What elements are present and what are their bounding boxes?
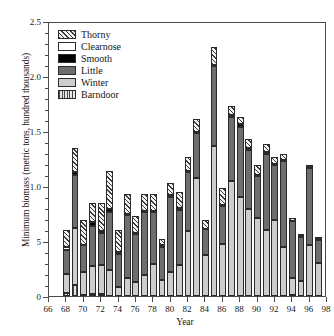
bar-segment-little bbox=[263, 154, 270, 230]
bar-segment-smooth bbox=[228, 115, 235, 117]
bar-segment-thorny bbox=[141, 194, 148, 212]
bar-segment-winter bbox=[289, 278, 296, 295]
legend-item-smooth: Smooth bbox=[58, 53, 121, 64]
bar-1987 bbox=[228, 21, 235, 296]
legend-item-clearnose: Clearnose bbox=[58, 41, 121, 52]
bar-segment-little bbox=[315, 240, 322, 263]
legend-swatch-clearnose bbox=[58, 42, 76, 51]
x-tick bbox=[65, 297, 66, 302]
bar-1994 bbox=[289, 21, 296, 296]
bar-segment-little bbox=[289, 221, 296, 278]
y-tick-minor bbox=[45, 286, 48, 287]
bar-segment-winter bbox=[115, 287, 122, 296]
x-tick bbox=[187, 297, 188, 302]
bar-segment-thorny bbox=[106, 171, 113, 210]
bar-segment-thorny bbox=[306, 165, 313, 167]
bar-segment-smooth bbox=[106, 209, 113, 212]
bar-segment-little bbox=[298, 237, 305, 281]
bar-segment-smooth bbox=[167, 195, 174, 197]
bar-segment-winter bbox=[167, 272, 174, 296]
bar-segment-little bbox=[211, 66, 218, 146]
bar-segment-smooth bbox=[115, 252, 122, 254]
bar-segment-thorny bbox=[280, 154, 287, 160]
bar-segment-little bbox=[159, 247, 166, 280]
x-tick bbox=[48, 297, 49, 302]
bar-segment-winter bbox=[315, 263, 322, 296]
y-tick-minor bbox=[45, 110, 48, 111]
y-tick-minor bbox=[45, 231, 48, 232]
bar-1993 bbox=[280, 21, 287, 296]
bar-segment-thorny bbox=[237, 117, 244, 125]
bar-segment-little bbox=[237, 127, 244, 197]
x-tick bbox=[100, 297, 101, 302]
bar-segment-winter bbox=[98, 265, 105, 294]
y-tick-minor bbox=[45, 121, 48, 122]
y-tick-label: 5 bbox=[1, 238, 41, 247]
bar-segment-thorny bbox=[89, 203, 96, 223]
bar-segment-little bbox=[167, 197, 174, 272]
bar-1982 bbox=[185, 21, 192, 296]
bar-segment-winter bbox=[159, 280, 166, 297]
bar-1981 bbox=[176, 21, 183, 296]
x-tick bbox=[257, 297, 258, 302]
bar-segment-winter bbox=[219, 244, 226, 296]
bar-1986 bbox=[219, 21, 226, 296]
x-tick bbox=[152, 297, 153, 302]
bar-segment-winter bbox=[306, 245, 313, 296]
bar-segment-little bbox=[98, 233, 105, 265]
bar-1990 bbox=[254, 21, 261, 296]
chart-legend: ThornyClearnoseSmoothLittleWinterBarndoo… bbox=[58, 29, 121, 100]
bar-segment-winter bbox=[176, 265, 183, 296]
bar-segment-thorny bbox=[63, 230, 70, 247]
x-tick-label: 98 bbox=[314, 304, 334, 314]
legend-swatch-barndoor bbox=[58, 90, 76, 99]
bar-segment-thorny bbox=[228, 106, 235, 115]
bar-1983 bbox=[193, 21, 200, 296]
bar-1984 bbox=[202, 21, 209, 296]
y-tick-minor bbox=[45, 187, 48, 188]
bar-1992 bbox=[271, 21, 278, 296]
legend-swatch-thorny bbox=[58, 30, 76, 39]
bar-segment-little bbox=[124, 215, 131, 279]
bar-segment-winter bbox=[141, 275, 148, 296]
bar-segment-little bbox=[176, 210, 183, 265]
bar-segment-barndoor bbox=[89, 294, 96, 296]
bar-segment-winter bbox=[124, 278, 131, 296]
bar-segment-thorny bbox=[245, 139, 252, 148]
bar-segment-little bbox=[245, 150, 252, 209]
bar-segment-thorny bbox=[98, 203, 105, 232]
bar-segment-smooth bbox=[176, 208, 183, 210]
bar-segment-winter bbox=[132, 282, 139, 296]
y-tick-minor bbox=[45, 176, 48, 177]
legend-label: Clearnose bbox=[81, 42, 121, 52]
legend-item-little: Little bbox=[58, 65, 121, 76]
bar-1995 bbox=[298, 21, 305, 296]
bar-segment-thorny bbox=[72, 148, 79, 172]
bar-segment-winter bbox=[185, 231, 192, 296]
bar-segment-thorny bbox=[202, 220, 209, 229]
bar-segment-thorny bbox=[159, 239, 166, 246]
legend-label: Barndoor bbox=[81, 90, 119, 100]
bar-segment-winter bbox=[228, 181, 235, 297]
bar-segment-thorny bbox=[132, 216, 139, 234]
y-tick-minor bbox=[45, 66, 48, 67]
y-tick bbox=[43, 77, 48, 78]
bar-segment-thorny bbox=[124, 194, 131, 214]
x-tick bbox=[222, 297, 223, 302]
bar-segment-little bbox=[306, 168, 313, 245]
bar-segment-thorny bbox=[176, 192, 183, 209]
y-tick-minor bbox=[45, 198, 48, 199]
y-tick-minor bbox=[45, 99, 48, 100]
bar-1996 bbox=[306, 21, 313, 296]
bar-segment-winter bbox=[150, 264, 157, 296]
legend-item-barndoor: Barndoor bbox=[58, 89, 121, 100]
x-tick bbox=[118, 297, 119, 302]
bar-segment-winter bbox=[271, 220, 278, 296]
legend-swatch-little bbox=[58, 66, 76, 75]
bar-segment-thorny bbox=[289, 218, 296, 221]
bar-segment-little bbox=[185, 172, 192, 231]
legend-label: Thorny bbox=[81, 30, 110, 40]
y-tick bbox=[43, 22, 48, 23]
bar-segment-little bbox=[193, 133, 200, 178]
bar-segment-thorny bbox=[298, 234, 305, 236]
